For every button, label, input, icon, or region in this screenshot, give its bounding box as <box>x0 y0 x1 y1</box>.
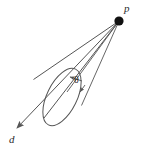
apex-point-dot <box>114 16 123 25</box>
direction-vector-label: d <box>9 134 15 145</box>
direction-vector-line <box>17 21 119 128</box>
cone-diagram-canvas <box>0 0 143 156</box>
half-angle-label: θ <box>74 75 79 85</box>
apex-point-label: p <box>124 3 130 14</box>
cone-diagram: p d θ <box>0 0 143 156</box>
cone-edge-lower <box>44 21 119 118</box>
